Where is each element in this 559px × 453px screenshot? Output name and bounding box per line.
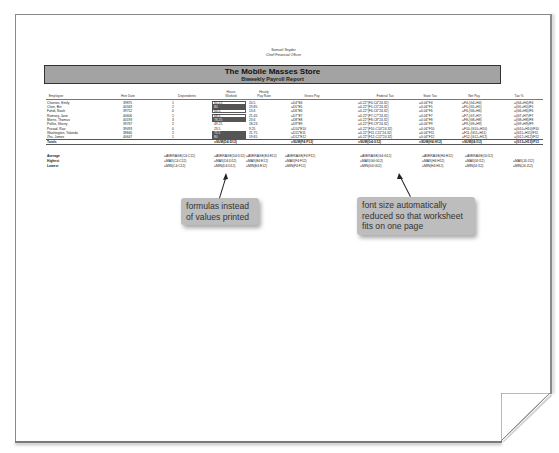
- stat-label: Lowest: [47, 164, 58, 168]
- stat-cell-state[interactable]: =MAX(H4:H12): [422, 159, 444, 163]
- totals-cell-gross[interactable]: =SUM(F4:F12): [291, 140, 313, 144]
- stat-cell-state[interactable]: =AVERAGE(H4:H12): [422, 154, 453, 158]
- officer-title: Chief Financial Officer: [15, 53, 552, 58]
- stat-cell-dep[interactable]: =MIN(C4:C12): [164, 164, 185, 168]
- totals-cell-state[interactable]: =SUM(H4:H12): [419, 140, 442, 144]
- column-header: Employee: [26, 94, 86, 98]
- stat-cell-net[interactable]: =MAX(I4:I12): [465, 159, 485, 163]
- stat-cell-gross[interactable]: =MIN(F4:F12): [285, 164, 306, 168]
- column-header: Tax %: [489, 94, 549, 98]
- stat-cell-rate[interactable]: =AVERAGE(E4:E12): [246, 154, 277, 158]
- stat-cell-gross[interactable]: =MAX(F4:F12): [285, 159, 307, 163]
- stat-cell-hours[interactable]: =MIN(D4:D12): [214, 164, 235, 168]
- stat-label: Highest: [47, 159, 59, 163]
- column-header: Hire Date: [98, 94, 158, 98]
- arrowhead-icon: [222, 173, 230, 181]
- stat-cell-rate[interactable]: =MIN(E4:E12): [246, 164, 267, 168]
- totals-cell-net[interactable]: =SUM(I4:I12): [462, 140, 482, 144]
- stat-cell-dep[interactable]: =MAX(C4:C12): [164, 159, 186, 163]
- report-subtitle: Biweekly Payroll Report: [45, 76, 500, 83]
- stat-cell-fed[interactable]: =AVERAGE(G4:G12): [360, 154, 391, 158]
- stat-cell-net[interactable]: =AVERAGE(I4:I12): [465, 154, 493, 158]
- stat-cell-fed[interactable]: =MAX(G4:G12): [360, 159, 383, 163]
- stat-label: Average: [47, 154, 60, 158]
- totals-cell-employee[interactable]: Totals: [47, 140, 56, 144]
- stat-cell-net[interactable]: =MIN(I4:I12): [465, 164, 483, 168]
- totals-cell-hours[interactable]: =SUM(D4:D12): [214, 140, 237, 144]
- callout-font-size: font size automatically reduced so that …: [357, 197, 475, 235]
- column-header: Gross Pay: [282, 94, 342, 98]
- totals-cell-taxpct[interactable]: =(G13+H13)/F13: [514, 140, 539, 144]
- stat-cell-state[interactable]: =MIN(H4:H12): [422, 164, 443, 168]
- stat-cell-gross[interactable]: =AVERAGE(F4:F12): [285, 154, 315, 158]
- callout-formulas-text: formulas instead of values printed: [186, 201, 249, 222]
- page-right-edge: [550, 14, 552, 394]
- callout-formulas: formulas instead of values printed: [181, 198, 259, 225]
- stat-cell-hours[interactable]: =AVERAGE(D4:D12): [214, 154, 245, 158]
- stat-cell-dep[interactable]: =AVERAGE(C4:C12): [164, 154, 195, 158]
- arrowhead-icon: [396, 173, 404, 181]
- callout-font-size-text: font size automatically reduced so that …: [362, 200, 463, 231]
- stat-cell-rate[interactable]: =MAX(E4:E12): [246, 159, 268, 163]
- totals-rule-bottom: [46, 144, 543, 145]
- store-title: The Mobile Masses Store: [45, 66, 500, 76]
- page-curl-icon: [501, 393, 552, 442]
- stat-cell-fed[interactable]: =MIN(G4:G12): [360, 164, 382, 168]
- title-banner: The Mobile Masses Store Biweekly Payroll…: [44, 65, 501, 84]
- stat-cell-taxpct[interactable]: =MIN(J4:J12): [513, 164, 533, 168]
- page-bottom-edge: [15, 441, 502, 443]
- stat-cell-taxpct[interactable]: =MAX(J4:J12): [513, 159, 534, 163]
- stat-cell-hours[interactable]: =MAX(D4:D12): [214, 159, 236, 163]
- totals-cell-fed[interactable]: =SUM(G4:G12): [358, 140, 381, 144]
